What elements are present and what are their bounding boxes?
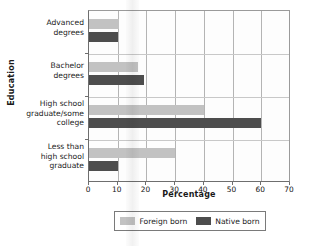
y-tick-label: degrees xyxy=(0,28,84,38)
legend-item-foreign-born: Foreign born xyxy=(120,217,187,226)
category-separator xyxy=(89,140,289,141)
y-tick-label: High school xyxy=(0,99,84,109)
plot-area xyxy=(88,10,290,182)
bar-native-born-0 xyxy=(89,32,118,42)
gridline-40 xyxy=(204,11,205,181)
legend-swatch-foreign-born xyxy=(120,217,135,225)
y-tick-label: degrees xyxy=(0,71,84,81)
category-separator xyxy=(89,54,289,55)
y-tick-label: Bachelor xyxy=(0,61,84,71)
chart-legend: Foreign born Native born xyxy=(114,211,266,231)
gridline-60 xyxy=(261,11,262,181)
y-axis-tick-labels: AdvanceddegreesBachelordegreesHigh schoo… xyxy=(0,0,88,172)
y-tick-label: Less than xyxy=(0,142,84,152)
x-axis-title: Percentage xyxy=(88,190,290,199)
category-separator xyxy=(89,97,289,98)
bar-foreign-born-0 xyxy=(89,19,119,29)
y-tick-label: college xyxy=(0,118,84,128)
bar-native-born-3 xyxy=(89,161,118,171)
grouped-bar-chart: Education AdvanceddegreesBachelordegrees… xyxy=(0,0,310,246)
legend-item-native-born: Native born xyxy=(196,217,259,226)
y-tick-label: graduate/some xyxy=(0,109,84,119)
y-tick-label: graduate xyxy=(0,161,84,171)
y-tick-label: Advanced xyxy=(0,18,84,28)
bar-foreign-born-2 xyxy=(89,105,204,115)
legend-label-native-born: Native born xyxy=(215,217,259,226)
legend-swatch-native-born xyxy=(196,217,211,225)
bar-foreign-born-1 xyxy=(89,62,138,72)
bar-foreign-born-3 xyxy=(89,148,175,158)
legend-label-foreign-born: Foreign born xyxy=(139,217,187,226)
gridline-50 xyxy=(233,11,234,181)
y-tick-label: high school xyxy=(0,152,84,162)
gridline-30 xyxy=(175,11,176,181)
bar-native-born-2 xyxy=(89,118,261,128)
bar-native-born-1 xyxy=(89,75,144,85)
